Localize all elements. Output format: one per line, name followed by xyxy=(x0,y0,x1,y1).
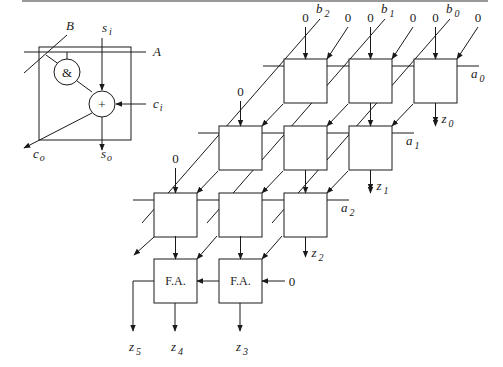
cell-r2-c0 xyxy=(154,193,197,237)
carry-in-arrow xyxy=(392,104,413,126)
label-z0: z0 xyxy=(441,111,454,129)
and-symbol: & xyxy=(62,65,72,80)
z5-arrow xyxy=(133,281,154,331)
b2-line xyxy=(142,19,320,223)
zero-sum-input: 0 xyxy=(367,10,374,25)
zero-carry-input: 0 xyxy=(345,10,352,25)
cell-r1-c1 xyxy=(284,126,327,170)
carry-in-arrow xyxy=(392,27,413,59)
b0-line xyxy=(272,19,450,223)
label-z5: z5 xyxy=(128,339,141,357)
label-b: B xyxy=(66,18,74,33)
cell-r1-c0 xyxy=(219,126,262,170)
label-b2: b2 xyxy=(316,1,330,19)
cell-r1-c2 xyxy=(349,126,392,170)
cell-r0-c0 xyxy=(284,59,327,103)
label-c-in: ci xyxy=(153,96,163,113)
legend-cell: & + B A si ci co so xyxy=(24,18,163,163)
full-adder-label: F.A. xyxy=(165,274,185,288)
zero-sum-input: 0 xyxy=(237,84,244,99)
carry-out-arrow xyxy=(134,237,154,255)
carry-in-arrow xyxy=(327,171,348,193)
label-c-out: co xyxy=(33,146,45,163)
label-b0: b0 xyxy=(446,1,460,19)
carry-in-arrow xyxy=(262,171,283,193)
label-a: A xyxy=(152,44,161,59)
label-z3: z3 xyxy=(235,339,248,357)
fa-carry-in xyxy=(197,236,217,259)
carry-in-arrow xyxy=(457,27,478,59)
label-z1: z1 xyxy=(376,178,389,196)
zero-carry-input: 0 xyxy=(475,10,482,25)
label-a0: a0 xyxy=(471,66,485,84)
label-z2: z2 xyxy=(311,245,324,263)
fa-zero-label: 0 xyxy=(289,274,296,289)
cell-r2-c2 xyxy=(284,193,327,237)
label-z4: z4 xyxy=(170,339,183,357)
carry-in-arrow xyxy=(327,104,348,126)
legend-cell-box xyxy=(39,47,131,140)
multiplier-array: a0a1a2b2b1b000000000z0z1z2F.A.F.A.0z3z4z… xyxy=(128,1,485,357)
b1-line xyxy=(207,19,385,223)
zero-carry-input: 0 xyxy=(410,10,417,25)
carry-in-arrow xyxy=(262,104,283,126)
full-adder-label: F.A. xyxy=(230,274,250,288)
zero-sum-input: 0 xyxy=(302,10,309,25)
multiplier-array-diagram: & + B A si ci co so a0a1a2b2b1b000000000… xyxy=(0,0,503,367)
label-a2: a2 xyxy=(341,200,355,218)
label-b1: b1 xyxy=(381,1,395,19)
fa-carry-in xyxy=(262,236,282,259)
cell-r0-c1 xyxy=(349,59,392,103)
zero-sum-input: 0 xyxy=(432,10,439,25)
carry-in-arrow xyxy=(197,171,218,193)
zero-sum-input: 0 xyxy=(172,151,179,166)
label-a1: a1 xyxy=(406,133,420,151)
cell-r0-c2 xyxy=(414,59,457,103)
cell-r2-c1 xyxy=(219,193,262,237)
carry-in-arrow xyxy=(327,27,348,59)
plus-symbol: + xyxy=(98,97,105,112)
label-s-out: so xyxy=(101,146,112,163)
label-s-in: si xyxy=(102,20,112,37)
